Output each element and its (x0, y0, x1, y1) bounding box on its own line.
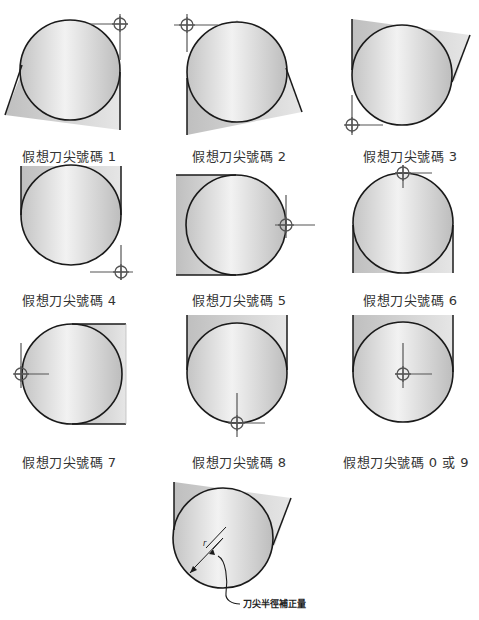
figure-6-label: 假想刀尖號碼 6 (363, 290, 457, 309)
figure-2-label: 假想刀尖號碼 2 (192, 146, 286, 165)
crosshair-icon (179, 17, 195, 33)
figure-5-label: 假想刀尖號碼 5 (192, 290, 286, 309)
crosshair-icon (113, 264, 129, 280)
detail-figure (173, 482, 291, 604)
crosshair-icon (344, 117, 360, 133)
figure-1 (5, 14, 128, 130)
figure-1-label: 假想刀尖號碼 1 (22, 146, 116, 165)
figure-8-label: 假想刀尖號碼 8 (192, 452, 286, 471)
figure-3-label: 假想刀尖號碼 3 (363, 146, 457, 165)
figure-7 (13, 324, 126, 424)
crosshair-icon (112, 16, 128, 32)
figure-3 (344, 19, 470, 135)
figure-0-or-9 (353, 315, 453, 422)
figure-5 (176, 175, 315, 275)
figure-8 (187, 315, 287, 437)
figure-2 (174, 14, 302, 135)
figure-0-or-9-label: 假想刀尖號碼 0 或 9 (343, 452, 469, 471)
figure-7-label: 假想刀尖號碼 7 (22, 452, 116, 471)
tool-nose-diagram (0, 0, 479, 620)
figure-6 (353, 165, 453, 273)
radius-symbol: r (203, 539, 206, 548)
radius-compensation-note: 刀尖半徑補正量 (243, 597, 306, 610)
figure-4 (21, 165, 133, 280)
figure-4-label: 假想刀尖號碼 4 (22, 290, 116, 309)
